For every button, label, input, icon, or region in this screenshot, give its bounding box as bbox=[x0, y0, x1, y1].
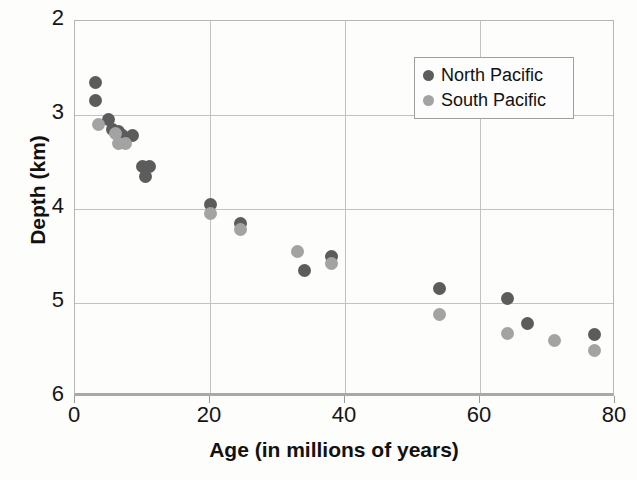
data-point bbox=[588, 344, 601, 357]
gridline-horizontal bbox=[75, 209, 613, 210]
gridline-vertical bbox=[345, 21, 346, 393]
y-tick-label: 4 bbox=[24, 193, 64, 219]
data-point bbox=[501, 327, 514, 340]
gridline-horizontal bbox=[75, 303, 613, 304]
data-point bbox=[234, 223, 247, 236]
y-tick-label: 3 bbox=[24, 99, 64, 125]
data-point bbox=[204, 207, 217, 220]
x-tick-label: 20 bbox=[179, 402, 239, 428]
x-tick-mark bbox=[479, 396, 480, 403]
data-point bbox=[291, 245, 304, 258]
x-tick-label: 80 bbox=[584, 402, 637, 428]
x-tick-label: 0 bbox=[44, 402, 104, 428]
data-point bbox=[501, 292, 514, 305]
data-point bbox=[325, 257, 338, 270]
legend-item: South Pacific bbox=[423, 88, 565, 113]
y-tick-label: 5 bbox=[24, 287, 64, 313]
x-tick-label: 60 bbox=[449, 402, 509, 428]
x-axis-title: Age (in millions of years) bbox=[74, 438, 594, 462]
legend-label: South Pacific bbox=[441, 90, 546, 111]
chart-legend: North PacificSouth Pacific bbox=[414, 57, 574, 119]
data-point bbox=[548, 334, 561, 347]
data-point bbox=[89, 76, 102, 89]
data-point bbox=[433, 308, 446, 321]
legend-marker-icon bbox=[423, 70, 434, 81]
x-tick-mark bbox=[209, 396, 210, 403]
scatter-chart-figure: Depth (km) Age (in millions of years) 23… bbox=[0, 0, 637, 480]
data-point bbox=[92, 118, 105, 131]
x-tick-mark bbox=[344, 396, 345, 403]
x-tick-mark bbox=[74, 396, 75, 403]
data-point bbox=[298, 264, 311, 277]
x-tick-label: 40 bbox=[314, 402, 374, 428]
data-point bbox=[433, 282, 446, 295]
x-tick-mark bbox=[614, 396, 615, 403]
legend-label: North Pacific bbox=[441, 65, 543, 86]
data-point bbox=[139, 170, 152, 183]
data-point bbox=[119, 137, 132, 150]
y-tick-label: 2 bbox=[24, 5, 64, 31]
data-point bbox=[588, 328, 601, 341]
data-point bbox=[521, 317, 534, 330]
data-point bbox=[89, 94, 102, 107]
legend-marker-icon bbox=[423, 95, 434, 106]
legend-item: North Pacific bbox=[423, 63, 565, 88]
